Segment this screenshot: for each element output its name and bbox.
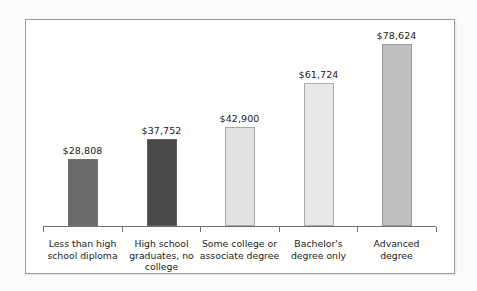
axis-tick: [436, 227, 437, 232]
bar-rect[interactable]: [147, 139, 177, 226]
chart-frame: $28,808 Less than high school diploma $3…: [25, 19, 455, 274]
category-label: High school graduates, no college: [119, 238, 205, 273]
bar-rect[interactable]: [382, 44, 412, 226]
bar-group: $61,724 Bachelor's degree only: [279, 20, 358, 273]
bar-value-label: $61,724: [299, 69, 339, 80]
bar-group: $28,808 Less than high school diploma: [43, 20, 122, 273]
bar-group: $37,752 High school graduates, no colleg…: [122, 20, 201, 273]
category-label: Less than high school diploma: [40, 238, 126, 261]
category-label: Advanced degree: [354, 238, 440, 261]
bar-group: $42,900 Some college or associate degree: [200, 20, 279, 273]
category-label: Bachelor's degree only: [276, 238, 362, 261]
bar-group: $78,624 Advanced degree: [357, 20, 436, 273]
category-label: Some college or associate degree: [197, 238, 283, 261]
bar-rect[interactable]: [225, 127, 255, 226]
bar-value-label: $42,900: [220, 113, 260, 124]
bar-value-label: $78,624: [377, 30, 417, 41]
plot-area: $28,808 Less than high school diploma $3…: [26, 20, 454, 273]
bar-value-label: $37,752: [142, 125, 182, 136]
bar-rect[interactable]: [304, 83, 334, 226]
bar-value-label: $28,808: [63, 145, 103, 156]
bar-rect[interactable]: [68, 159, 98, 226]
